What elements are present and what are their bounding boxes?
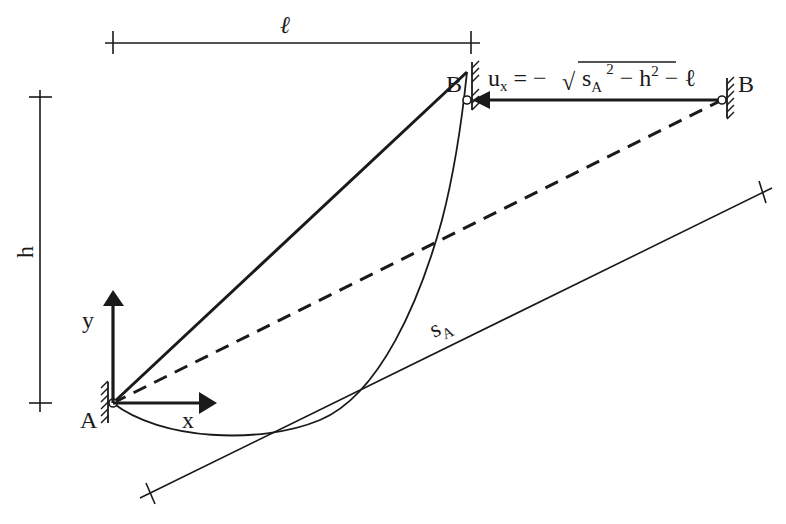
point-B-initial-label: B [446,71,462,97]
dimension-h: h [12,90,52,412]
chord-A-Bdisplaced [113,100,722,403]
y-axis-label: y [82,307,94,333]
x-axis-label: x [182,407,194,433]
svg-text:sA2− h2− ℓ: sA2− h2− ℓ [582,61,696,95]
straight-bar-A-B [113,72,467,403]
dimension-l-label: ℓ [280,12,290,38]
dimension-l: ℓ [105,12,480,54]
dimension-sA-label: sA [425,310,456,346]
svg-text:sA: sA [425,310,456,346]
dimension-h-label: h [12,246,38,258]
point-A-label: A [80,407,98,433]
x-axis-arrowhead-icon [199,392,217,414]
sqrt-symbol: √ [562,69,576,95]
hinge-B-displaced-icon [718,96,726,104]
displacement-equation: ux= − √ sA2− h2− ℓ [488,61,696,95]
support-B-displaced: B [718,71,754,119]
y-axis-arrowhead-icon [103,290,124,306]
support-B-initial: B [446,61,479,110]
diagram-canvas: ℓ h sA A y [0,0,786,524]
hinge-B-initial-icon [463,96,471,104]
point-B-displaced-label: B [738,71,754,97]
dimension-sA: sA [140,181,772,504]
svg-text:ux= −: ux= − [488,65,547,94]
